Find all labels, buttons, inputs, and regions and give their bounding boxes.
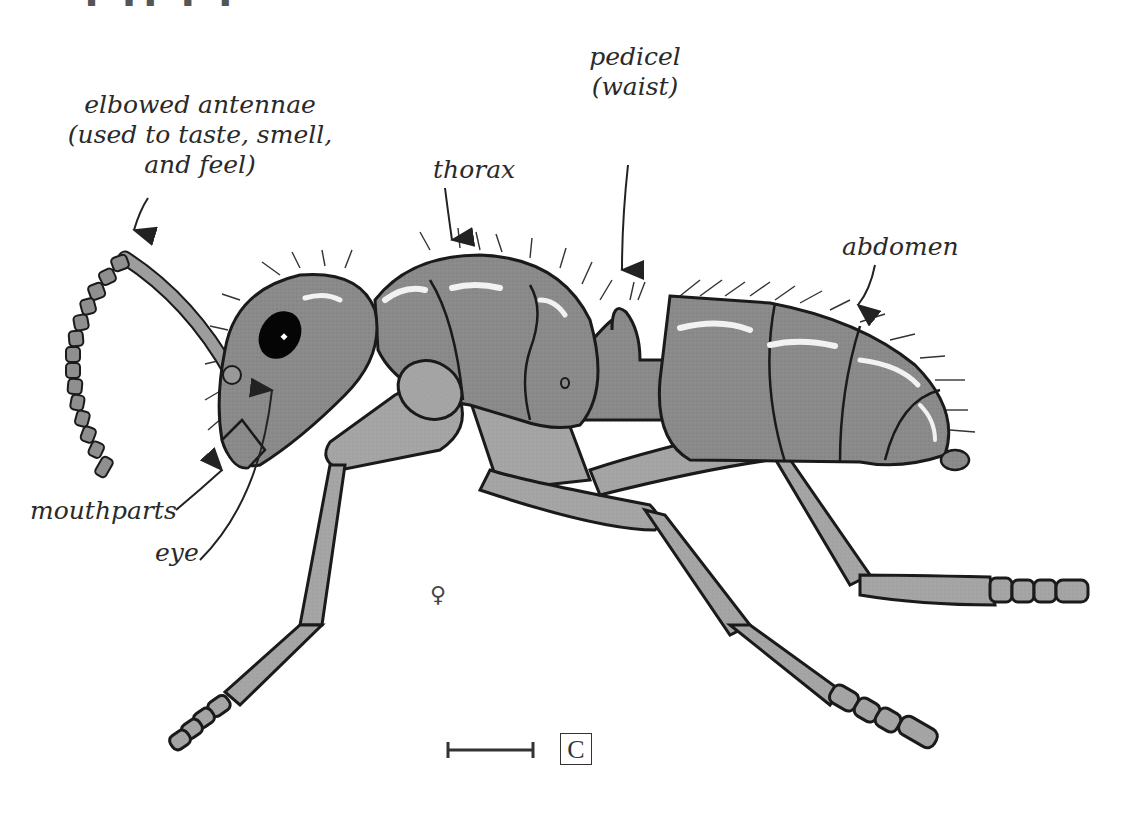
abdomen — [659, 296, 969, 470]
antenna — [66, 254, 232, 479]
female-symbol-icon: ♀ — [430, 582, 446, 607]
label-abdomen: abdomen — [842, 232, 959, 262]
label-pedicel: pedicel (waist) — [580, 42, 690, 102]
label-eye: eye — [155, 538, 199, 568]
label-thorax: thorax — [433, 155, 515, 185]
thorax — [375, 255, 598, 431]
label-antennae: elbowed antennae (used to taste, smell, … — [55, 90, 345, 180]
scale-letter-box: C — [560, 733, 592, 765]
label-mouthparts: mouthparts — [30, 496, 177, 526]
ant-anatomy-diagram: ▀ ▀▀ ▀ ▀ — [0, 0, 1147, 818]
scale-bar — [448, 742, 533, 758]
